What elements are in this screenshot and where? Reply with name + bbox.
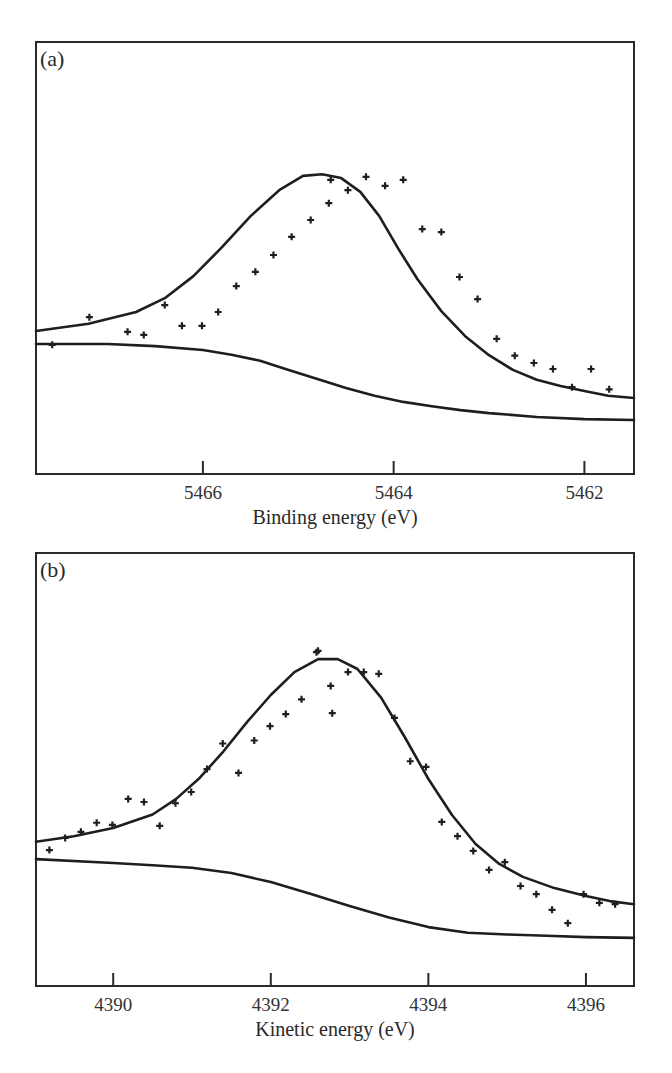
data-point-plus-marker (345, 669, 352, 676)
data-point-plus-marker (407, 758, 414, 765)
panel-a: (a) 546654645462 Binding energy (eV) (36, 42, 634, 529)
data-point-plus-marker (400, 176, 407, 183)
data-point-plus-marker (298, 696, 305, 703)
data-points-b (46, 647, 619, 926)
data-point-plus-marker (140, 798, 147, 805)
data-point-plus-marker (549, 366, 556, 373)
panel-label-a: (a) (40, 46, 64, 71)
data-point-plus-marker (564, 920, 571, 927)
data-point-plus-marker (456, 274, 463, 281)
data-point-plus-marker (156, 822, 163, 829)
figure: (a) 546654645462 Binding energy (eV) (b)… (0, 0, 672, 1073)
panel-b: (b) 4390439243944396 Kinetic energy (eV) (36, 553, 634, 1041)
data-point-plus-marker (282, 711, 289, 718)
data-point-plus-marker (288, 233, 295, 240)
data-point-plus-marker (219, 740, 226, 747)
data-point-plus-marker (86, 314, 93, 321)
x-axis-label-b: Kinetic energy (eV) (255, 1018, 415, 1041)
data-point-plus-marker (140, 331, 147, 338)
data-point-plus-marker (93, 819, 100, 826)
data-point-plus-marker (588, 366, 595, 373)
x-tick-label: 4390 (94, 994, 132, 1015)
x-tick-label: 4394 (409, 994, 448, 1015)
data-point-plus-marker (124, 328, 131, 335)
x-tick-label: 5464 (375, 482, 414, 503)
data-point-plus-marker (511, 352, 518, 359)
data-points-a (49, 173, 613, 393)
data-point-plus-marker (62, 834, 69, 841)
data-point-plus-marker (549, 906, 556, 913)
data-point-plus-marker (252, 268, 259, 275)
data-point-plus-marker (493, 335, 500, 342)
data-point-plus-marker (125, 795, 132, 802)
data-point-plus-marker (329, 710, 336, 717)
x-axis-ticks-a: 546654645462 (184, 461, 603, 503)
data-point-plus-marker (474, 296, 481, 303)
x-tick-label: 4392 (252, 994, 290, 1015)
data-point-plus-marker (325, 200, 332, 207)
x-axis-ticks-b: 4390439243944396 (94, 973, 605, 1015)
data-point-plus-marker (233, 283, 240, 290)
data-point-plus-marker (470, 847, 477, 854)
data-point-plus-marker (251, 737, 258, 744)
data-point-plus-marker (382, 182, 389, 189)
data-point-plus-marker (517, 882, 524, 889)
data-point-plus-marker (344, 187, 351, 194)
data-point-plus-marker (267, 723, 274, 730)
plot-frame-a (36, 42, 634, 474)
data-point-plus-marker (530, 359, 537, 366)
data-point-plus-marker (419, 226, 426, 233)
panel-label-b: (b) (40, 557, 66, 582)
data-point-plus-marker (161, 302, 168, 309)
data-point-plus-marker (188, 789, 195, 796)
data-point-plus-marker (327, 682, 334, 689)
x-tick-label: 5466 (184, 482, 222, 503)
data-point-plus-marker (215, 309, 222, 316)
data-point-plus-marker (606, 386, 613, 393)
data-point-plus-marker (178, 322, 185, 329)
x-tick-label: 5462 (565, 482, 603, 503)
data-point-plus-marker (307, 216, 314, 223)
data-point-plus-marker (362, 173, 369, 180)
data-point-plus-marker (486, 866, 493, 873)
data-point-plus-marker (49, 341, 56, 348)
data-point-plus-marker (438, 818, 445, 825)
data-point-plus-marker (235, 769, 242, 776)
data-point-plus-marker (46, 847, 53, 854)
data-point-plus-marker (198, 322, 205, 329)
fit-curve-b (36, 659, 634, 904)
data-point-plus-marker (375, 670, 382, 677)
background-curve-b (36, 859, 634, 938)
data-point-plus-marker (454, 833, 461, 840)
data-point-plus-marker (533, 891, 540, 898)
fit-curve-a (36, 174, 634, 398)
data-point-plus-marker (270, 251, 277, 258)
data-point-plus-marker (438, 229, 445, 236)
plot-frame-b (36, 553, 634, 986)
x-axis-label-a: Binding energy (eV) (252, 506, 417, 529)
x-tick-label: 4396 (567, 994, 605, 1015)
